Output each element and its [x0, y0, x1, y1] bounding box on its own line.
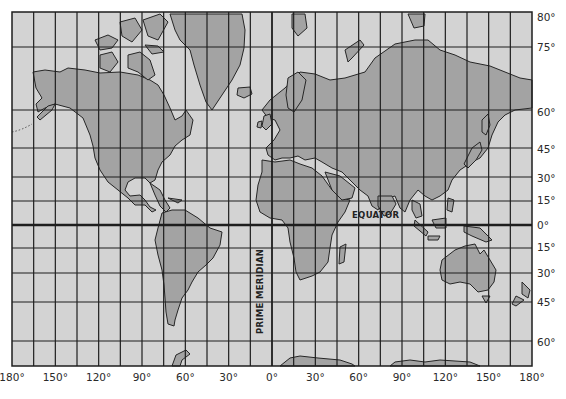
latitude-label: 80° [537, 11, 556, 23]
longitude-label: 0° [266, 371, 278, 383]
latitude-label: 45° [537, 296, 556, 308]
longitude-label: 180° [519, 371, 544, 383]
latitude-label: 30° [537, 172, 556, 184]
latitude-label: 60° [537, 106, 556, 118]
longitude-label: 90° [393, 371, 412, 383]
latitude-label: 30° [537, 267, 556, 279]
world-map [0, 0, 566, 399]
prime-meridian-label: PRIME MERIDIAN [255, 249, 265, 334]
latitude-label: 15° [537, 241, 556, 253]
longitude-label: 60° [176, 371, 195, 383]
longitude-label: 120° [433, 371, 458, 383]
longitude-label: 90° [133, 371, 152, 383]
longitude-label: 150° [476, 371, 501, 383]
latitude-label: 60° [537, 336, 556, 348]
longitude-label: 30° [219, 371, 238, 383]
longitude-label: 60° [349, 371, 368, 383]
latitude-label: 0° [537, 219, 549, 231]
longitude-label: 150° [43, 371, 68, 383]
longitude-label: 30° [306, 371, 325, 383]
longitude-label: 120° [86, 371, 111, 383]
latitude-label: 75° [537, 41, 556, 53]
longitude-label: 180° [0, 371, 25, 383]
latitude-label: 15° [537, 194, 556, 206]
latitude-label: 45° [537, 143, 556, 155]
equator-label: EQUATOR [352, 210, 399, 220]
